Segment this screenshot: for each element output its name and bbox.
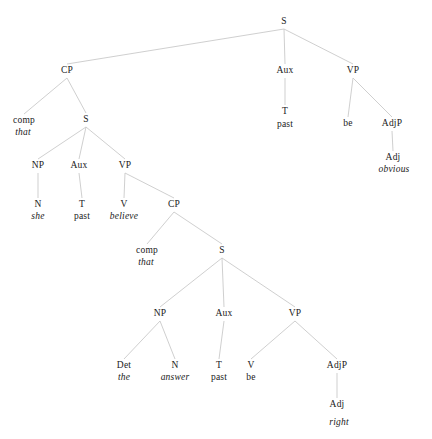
tree-edge — [284, 29, 285, 64]
tree-node-she1: she — [31, 212, 44, 222]
tree-node-adjp1: AdjP — [382, 119, 402, 129]
tree-node-aux3: Aux — [216, 309, 233, 319]
tree-node-adj1: Adj — [386, 153, 401, 163]
tree-edge — [219, 321, 224, 359]
tree-node-t2: T — [79, 200, 85, 210]
tree-edge — [295, 321, 337, 359]
tree-edge — [79, 127, 86, 159]
tree-node-np1: NP — [32, 161, 45, 171]
syntax-tree-figure: SCPAuxVPcompthatSTpastbeAdjPAdjobviousNP… — [0, 0, 432, 439]
tree-node-aux2: Aux — [71, 161, 88, 171]
tree-node-adj2: Adj — [330, 400, 345, 410]
tree-edge — [222, 258, 295, 307]
tree-edge — [284, 29, 353, 64]
tree-node-be2: be — [246, 373, 255, 383]
tree-node-s2: S — [83, 115, 88, 125]
tree-edge — [124, 173, 125, 198]
tree-node-vp2: VP — [119, 161, 132, 171]
tree-node-v2: V — [247, 361, 254, 371]
tree-node-believe1: believe — [110, 212, 138, 222]
tree-edge — [348, 78, 353, 117]
tree-node-cp2: CP — [168, 200, 180, 210]
tree-node-adjp2: AdjP — [327, 361, 347, 371]
tree-node-answer1: answer — [161, 373, 190, 383]
tree-node-n1: N — [34, 200, 41, 210]
tree-node-that1: that — [15, 128, 31, 138]
tree-node-s3: S — [219, 246, 224, 256]
tree-node-the1: the — [118, 373, 130, 383]
tree-edge — [38, 127, 86, 159]
tree-edge — [251, 321, 295, 359]
tree-node-that2: that — [138, 258, 154, 268]
tree-edge — [353, 78, 392, 117]
tree-node-be1: be — [343, 119, 352, 129]
tree-edge — [147, 212, 174, 244]
tree-node-s1: S — [281, 17, 286, 27]
tree-edge — [67, 78, 86, 113]
tree-node-comp1: comp — [13, 116, 35, 126]
tree-node-np2: NP — [154, 309, 167, 319]
tree-edge — [79, 173, 82, 198]
tree-node-past3: past — [211, 373, 227, 383]
tree-edge — [125, 173, 174, 198]
tree-node-t1: T — [282, 107, 288, 117]
tree-edge — [124, 321, 160, 359]
tree-node-right1: right — [329, 418, 348, 428]
tree-edge — [67, 29, 284, 64]
tree-edge — [86, 127, 125, 159]
tree-node-vp1: VP — [347, 66, 360, 76]
tree-edge — [24, 78, 67, 114]
tree-node-obvious1: obvious — [379, 165, 410, 175]
tree-node-cp1: CP — [61, 66, 73, 76]
tree-node-n2: N — [171, 361, 178, 371]
tree-node-past2: past — [74, 212, 90, 222]
tree-node-det1: Det — [117, 361, 131, 371]
tree-edge — [160, 258, 222, 307]
tree-node-v1: V — [120, 200, 127, 210]
tree-node-comp2: comp — [136, 246, 158, 256]
tree-node-past1: past — [277, 120, 293, 130]
tree-edge — [222, 258, 224, 307]
tree-node-t3: T — [216, 361, 222, 371]
tree-edge — [160, 321, 175, 359]
tree-edge — [174, 212, 222, 244]
tree-edge — [392, 131, 393, 151]
tree-node-aux1: Aux — [277, 66, 294, 76]
tree-node-vp3: VP — [289, 309, 302, 319]
